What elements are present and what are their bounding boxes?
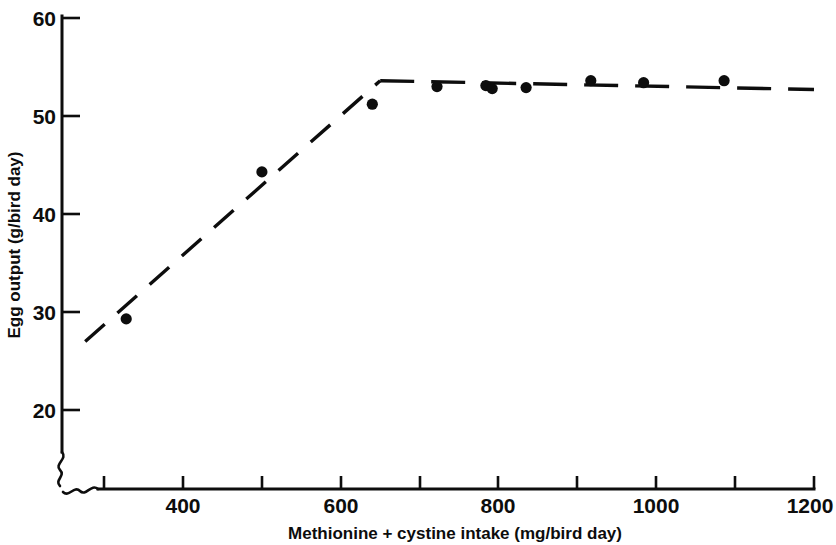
chart-figure: 60 50 40 30 20 Egg output (g/bird day) bbox=[0, 0, 836, 545]
x-axis-tick-labels: 400 600 800 1000 1200 bbox=[165, 494, 833, 517]
data-point bbox=[719, 75, 730, 86]
data-point bbox=[256, 166, 267, 177]
y-axis-break-icon bbox=[58, 452, 63, 486]
x-tick-label-600: 600 bbox=[323, 494, 358, 517]
data-point bbox=[585, 75, 596, 86]
x-axis-group: 400 600 800 1000 1200 Methionine + cysti… bbox=[63, 476, 833, 543]
data-point bbox=[487, 83, 498, 94]
y-tick-label-40: 40 bbox=[33, 203, 56, 226]
data-point bbox=[367, 99, 378, 110]
x-axis-ticks bbox=[104, 476, 814, 489]
plot-data-layer bbox=[85, 75, 814, 341]
data-point bbox=[121, 313, 132, 324]
fit-line-plateau bbox=[380, 81, 814, 90]
data-point bbox=[638, 77, 649, 88]
x-axis-break-icon bbox=[63, 487, 98, 493]
x-tick-label-400: 400 bbox=[165, 494, 200, 517]
x-tick-label-1200: 1200 bbox=[787, 494, 834, 517]
y-tick-label-30: 30 bbox=[33, 301, 56, 324]
x-tick-label-800: 800 bbox=[480, 494, 515, 517]
x-tick-label-1000: 1000 bbox=[633, 494, 680, 517]
y-axis-tick-labels: 60 50 40 30 20 bbox=[33, 7, 56, 422]
y-tick-label-50: 50 bbox=[33, 105, 56, 128]
fit-line-ascending bbox=[85, 81, 380, 342]
egg-output-scatter-chart: 60 50 40 30 20 Egg output (g/bird day) bbox=[0, 0, 836, 545]
y-tick-label-20: 20 bbox=[33, 399, 56, 422]
x-axis-title: Methionine + cystine intake (mg/bird day… bbox=[288, 524, 622, 543]
y-axis-title: Egg output (g/bird day) bbox=[5, 152, 24, 339]
data-point bbox=[431, 81, 442, 92]
y-axis-group: 60 50 40 30 20 Egg output (g/bird day) bbox=[5, 7, 80, 486]
data-point bbox=[521, 82, 532, 93]
y-axis-ticks bbox=[62, 18, 80, 410]
y-tick-label-60: 60 bbox=[33, 7, 56, 30]
